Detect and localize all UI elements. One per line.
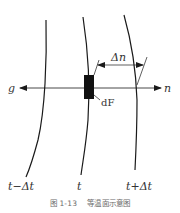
dimension-extension-left (94, 60, 99, 75)
dF-leader-line (94, 95, 100, 100)
surface-element-dF (84, 75, 94, 99)
figure-number: 图 1-13 (50, 199, 78, 208)
isotherm-curve-t-minus-dt (26, 20, 46, 177)
element-label-dF: dF (101, 97, 114, 108)
isotherm-curve-t-plus-dt (124, 15, 137, 170)
isothermal-surface-diagram: g n dF Δn t−Δt t t+Δt (0, 0, 180, 213)
isotherm-label-t-plus-dt: t+Δt (126, 180, 153, 193)
axis-label-n: n (164, 82, 171, 95)
figure-caption: 图 1-13等温面示意图 (0, 197, 180, 208)
isotherm-label-t-minus-dt: t−Δt (8, 180, 35, 193)
figure-title: 等温面示意图 (87, 199, 130, 208)
isotherm-label-t: t (77, 180, 82, 193)
axis-label-g: g (8, 82, 15, 95)
dimension-label-delta-n: Δn (110, 51, 126, 64)
dimension-extension-right (137, 57, 147, 85)
